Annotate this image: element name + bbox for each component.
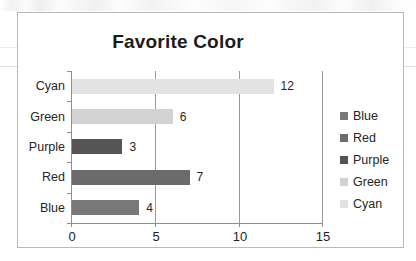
chart-container: Favorite Color Cyan Green Purple Red Blu… <box>17 12 404 248</box>
x-axis-label-5: 5 <box>152 229 159 244</box>
y-axis-tick-3 <box>67 162 71 163</box>
legend-swatch-green <box>340 178 348 186</box>
x-axis-line <box>71 223 323 224</box>
legend-label-purple: Purple <box>353 153 389 167</box>
legend-swatch-red <box>340 134 348 142</box>
legend-item-blue[interactable]: Blue <box>340 105 402 127</box>
legend-label-green: Green <box>353 175 388 189</box>
bar-blue <box>72 200 139 215</box>
bar-green <box>72 109 173 124</box>
bar-value-green: 6 <box>180 110 187 124</box>
y-axis-tick-4 <box>67 193 71 194</box>
bar-purple <box>72 139 122 154</box>
y-axis-label-blue: Blue <box>13 201 65 215</box>
legend-item-purple[interactable]: Purple <box>340 149 402 171</box>
legend-label-red: Red <box>353 131 376 145</box>
bar-value-red: 7 <box>197 170 204 184</box>
legend-swatch-cyan <box>340 200 348 208</box>
bar-value-blue: 4 <box>146 201 153 215</box>
x-axis-tick-5 <box>155 223 156 227</box>
x-axis-tick-0 <box>71 223 72 227</box>
legend-swatch-blue <box>340 112 348 120</box>
plot-area: 12 6 3 7 4 0 5 10 15 <box>71 71 323 223</box>
y-axis-label-red: Red <box>13 170 65 184</box>
y-axis-category-labels: Cyan Green Purple Red Blue <box>18 71 65 223</box>
y-axis-label-purple: Purple <box>13 140 65 154</box>
y-axis-label-green: Green <box>13 110 65 124</box>
x-axis-label-15: 15 <box>316 229 330 244</box>
legend-item-cyan[interactable]: Cyan <box>340 193 402 215</box>
bar-cyan <box>72 79 274 94</box>
bar-red <box>72 170 190 185</box>
legend-swatch-purple <box>340 156 348 164</box>
bar-row-blue: 4 <box>72 193 153 223</box>
gridline-15 <box>322 71 323 223</box>
legend-label-cyan: Cyan <box>353 197 382 211</box>
x-axis-tick-10 <box>239 223 240 227</box>
x-axis-tick-15 <box>322 223 323 227</box>
bar-value-cyan: 12 <box>281 79 294 93</box>
bar-row-red: 7 <box>72 162 203 192</box>
bar-row-green: 6 <box>72 101 186 131</box>
y-axis-label-cyan: Cyan <box>13 79 65 93</box>
legend-label-blue: Blue <box>353 109 378 123</box>
bar-row-cyan: 12 <box>72 71 294 101</box>
page-scan-artifact <box>0 0 416 11</box>
x-axis-label-10: 10 <box>233 229 247 244</box>
y-axis-tick-2 <box>67 132 71 133</box>
bar-row-purple: 3 <box>72 132 136 162</box>
x-axis-label-0: 0 <box>68 229 75 244</box>
legend-item-green[interactable]: Green <box>340 171 402 193</box>
chart-title: Favorite Color <box>18 31 338 53</box>
y-axis-tick-0 <box>67 71 71 72</box>
legend-item-red[interactable]: Red <box>340 127 402 149</box>
chart-legend: Blue Red Purple Green Cyan <box>340 105 402 215</box>
y-axis-tick-1 <box>67 101 71 102</box>
bar-value-purple: 3 <box>129 140 136 154</box>
